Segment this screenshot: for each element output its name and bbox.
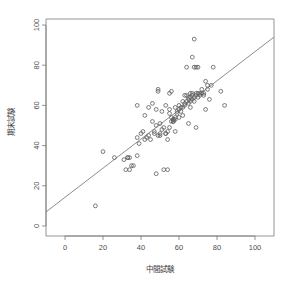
data-point <box>211 65 215 69</box>
data-point <box>166 168 170 172</box>
data-point <box>154 108 158 112</box>
data-point <box>192 37 196 41</box>
data-point <box>151 120 155 124</box>
x-tick-label: 0 <box>63 243 67 252</box>
x-tick-label: 100 <box>249 243 262 252</box>
data-point <box>128 168 132 172</box>
data-point <box>149 138 153 142</box>
y-tick-label: 40 <box>33 141 42 149</box>
regression-line <box>46 37 274 212</box>
data-point <box>168 126 172 130</box>
data-point <box>200 87 204 91</box>
data-point <box>101 150 105 154</box>
data-point <box>173 130 177 134</box>
data-point <box>147 106 151 110</box>
data-point <box>122 158 126 162</box>
data-point <box>223 104 227 108</box>
y-tick-label: 20 <box>33 182 42 190</box>
scatter-plot-figure: 020406080100 020406080100 中間試験 期末試験 <box>0 0 298 283</box>
x-axis-title: 中間試験 <box>146 264 175 274</box>
plot-frame <box>46 19 274 236</box>
data-points <box>94 37 227 208</box>
x-tick-label: 40 <box>137 243 145 252</box>
x-axis-tick-labels: 020406080100 <box>63 243 261 252</box>
y-tick-label: 80 <box>33 61 42 69</box>
data-point <box>166 138 170 142</box>
data-point <box>173 106 177 110</box>
data-point <box>137 142 141 146</box>
data-point <box>190 55 194 59</box>
data-point <box>208 97 212 101</box>
data-point <box>219 89 223 93</box>
y-axis-ticks <box>42 25 46 226</box>
x-tick-label: 20 <box>99 243 107 252</box>
x-tick-label: 60 <box>175 243 183 252</box>
y-tick-label: 60 <box>33 101 42 109</box>
data-point <box>124 168 128 172</box>
data-point <box>164 104 168 108</box>
data-point <box>94 204 98 208</box>
data-point <box>185 65 189 69</box>
plot-canvas: 020406080100 020406080100 中間試験 期末試験 <box>0 0 298 283</box>
y-axis-title: 期末試験 <box>6 107 16 136</box>
data-point <box>143 114 147 118</box>
data-point <box>168 108 172 112</box>
y-tick-label: 0 <box>33 224 42 228</box>
data-point <box>204 108 208 112</box>
data-point <box>162 168 166 172</box>
data-point <box>194 126 198 130</box>
data-point <box>189 106 193 110</box>
data-point <box>204 79 208 83</box>
x-tick-label: 80 <box>213 243 221 252</box>
y-tick-label: 100 <box>33 19 42 32</box>
data-point <box>154 172 158 176</box>
data-point <box>177 116 181 120</box>
x-axis-ticks <box>65 236 255 240</box>
data-point <box>160 110 164 114</box>
data-point <box>181 114 185 118</box>
data-point <box>168 112 172 116</box>
data-point <box>135 136 139 140</box>
data-point <box>135 104 139 108</box>
y-axis-tick-labels: 020406080100 <box>33 19 42 228</box>
data-point <box>135 154 139 158</box>
data-point <box>151 101 155 105</box>
data-point <box>187 122 191 126</box>
